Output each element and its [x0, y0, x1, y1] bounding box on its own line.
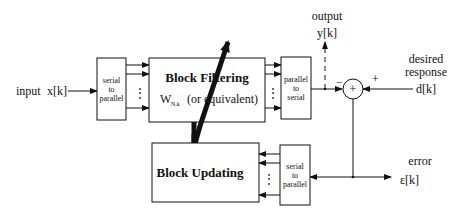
serial-to-parallel-input-block: serial to parallel	[97, 58, 126, 120]
svg-text:+: +	[350, 82, 357, 96]
weight-note: (or equivalent)	[187, 92, 258, 106]
svg-text:to: to	[108, 85, 114, 94]
error-label: error	[408, 154, 431, 168]
svg-text:parallel: parallel	[100, 94, 125, 103]
svg-text:to: to	[292, 171, 298, 180]
svg-text:to: to	[293, 84, 299, 93]
block-adaptive-filter-diagram: input x[k] serial to parallel ⋮ Block Fi…	[0, 0, 461, 217]
weight-subscript: N,k	[171, 101, 180, 107]
output-label: output	[312, 9, 343, 23]
svg-text:parallel: parallel	[284, 75, 309, 84]
output-signal: y[k]	[317, 26, 337, 40]
svg-text:parallel: parallel	[283, 180, 308, 189]
block-filtering-title: Block Filtering	[165, 70, 249, 85]
ellipsis-dots: ⋮	[134, 86, 146, 100]
minus-sign: −	[336, 75, 343, 89]
svg-text:serial: serial	[286, 162, 304, 171]
error-signal: ε[k]	[400, 173, 419, 187]
input-signal: x[k]	[47, 84, 67, 98]
block-updating-block: Block Updating	[152, 143, 259, 202]
block-updating-title: Block Updating	[156, 165, 244, 180]
desired-label-line2: response	[405, 65, 447, 79]
summing-junction: +	[343, 79, 363, 99]
svg-text:serial: serial	[103, 76, 121, 85]
input-label: input	[16, 84, 41, 98]
plus-sign: +	[372, 72, 379, 86]
desired-signal: d[k]	[416, 82, 436, 96]
serial-to-parallel-error-block: serial to parallel	[280, 145, 310, 205]
svg-text:⋮: ⋮	[267, 86, 279, 100]
parallel-to-serial-block: parallel to serial	[281, 57, 311, 119]
svg-text:serial: serial	[287, 93, 305, 102]
svg-text:⋮: ⋮	[263, 172, 275, 186]
desired-label-line1: desired	[409, 52, 444, 66]
